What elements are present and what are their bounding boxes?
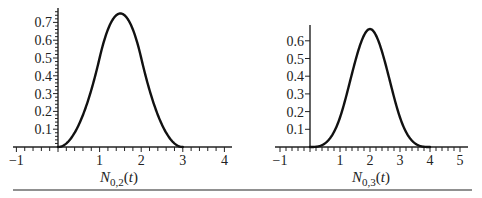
x-tick-label: −1: [273, 153, 288, 168]
y-tick-label: 0.1: [35, 122, 53, 137]
x-axis: −11234: [9, 147, 232, 168]
x-tick-label: 4: [221, 153, 228, 168]
y-tick-label: 0.6: [287, 34, 305, 49]
y-axis: 0.10.20.30.40.50.60.7: [35, 8, 59, 147]
x-tick-label: 4: [427, 153, 434, 168]
y-tick-label: 0.6: [35, 33, 53, 48]
x-tick-label: 1: [337, 153, 344, 168]
x-tick-label: 5: [457, 153, 464, 168]
y-tick-label: 0.2: [287, 105, 305, 120]
x-axis-title: N0,3(t): [351, 169, 390, 188]
y-tick-label: 0.4: [287, 69, 305, 84]
x-tick-label: 1: [96, 153, 103, 168]
x-tick-label: 3: [179, 153, 186, 168]
x-tick-label: −1: [9, 153, 24, 168]
y-tick-label: 0.2: [35, 104, 53, 119]
chart-n02: −11234 0.10.20.30.40.50.60.7 N0,2(t): [9, 8, 240, 190]
curve-n03: [310, 29, 430, 147]
y-tick-label: 0.4: [35, 69, 53, 84]
y-tick-label: 0.3: [35, 87, 53, 102]
y-tick-label: 0.5: [287, 52, 305, 67]
x-axis: −112345: [273, 147, 468, 168]
chart-n03: −112345 0.10.20.30.40.50.6 N0,3(t): [240, 25, 472, 190]
y-tick-label: 0.5: [35, 51, 53, 66]
figure: −11234 0.10.20.30.40.50.60.7 N0,2(t) −11…: [0, 0, 482, 198]
y-tick-label: 0.7: [35, 15, 53, 30]
x-tick-label: 2: [138, 153, 145, 168]
x-tick-label: 2: [367, 153, 374, 168]
y-axis: 0.10.20.30.40.50.6: [287, 25, 311, 147]
y-tick-label: 0.3: [287, 87, 305, 102]
x-axis-title: N0,2(t): [99, 169, 138, 188]
x-tick-label: 3: [397, 153, 404, 168]
curve-n02: [58, 14, 183, 148]
y-tick-label: 0.1: [287, 122, 305, 137]
